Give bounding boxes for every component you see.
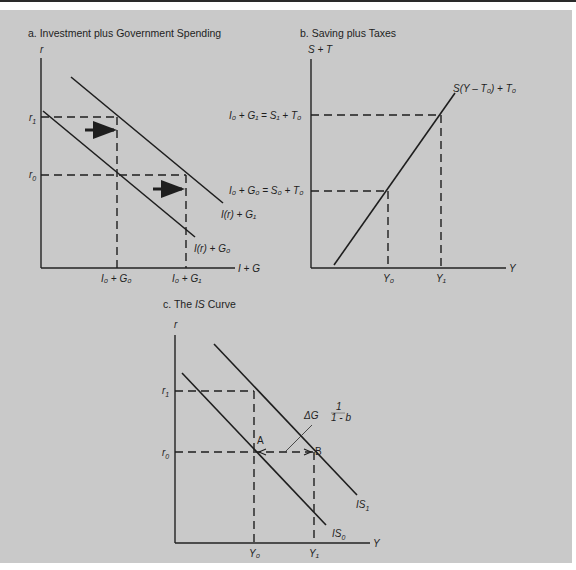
tick-r0: r0 [29,169,36,182]
tick-y0: Y₀ [383,273,394,284]
panel-c: c. The IS Curve r Y r1 r0 A B ΔG 1 1 - b… [162,298,381,559]
curve-investment-g0 [43,111,195,237]
curve-label-ir-g0: I(r) + G₀ [194,243,230,254]
panel-a: a. Investment plus Government Spending r… [28,27,260,284]
panel-a-y-axis-label: r [40,44,44,55]
tick-i0-g1: I₀ + G₁ [172,273,201,284]
tick-y0: Y₀ [249,548,260,559]
label-level-0: I₀ + G₀ = S₀ + T₀ [229,185,303,196]
panel-a-title: a. Investment plus Government Spending [28,27,221,39]
fraction-denominator: 1 - b [331,412,351,423]
point-b-label: B [315,446,322,457]
curve-saving-plus-taxes [334,93,455,265]
panel-c-title: c. The IS Curve [163,298,236,310]
panel-b-title: b. Saving plus Taxes [300,27,396,39]
is-curve-figure: a. Investment plus Government Spending r… [0,0,576,570]
fraction-numerator: 1 [336,401,342,412]
tick-i0-g0: I₀ + G₀ [101,273,131,284]
curve-label-ir-g1: I(r) + G₁ [221,209,256,220]
curve-label-is0: IS0 [332,528,345,541]
point-a-label: A [257,435,264,446]
label-level-1: I₀ + G₁ = S₁ + T₀ [229,110,301,121]
panel-b: b. Saving plus Taxes S + T Y S(Y – T₀) +… [229,27,517,284]
panel-b-y-axis-label: S + T [308,44,333,55]
tick-y1: Y₁ [436,273,446,284]
curve-investment-g1 [71,77,223,203]
curve-label-is1: IS1 [356,499,369,512]
panel-b-x-axis-label: Y [509,263,517,274]
tick-r1: r1 [29,112,36,125]
tick-r1: r1 [162,385,169,398]
tick-r0: r0 [162,447,169,460]
panel-c-y-axis-label: r [174,319,178,330]
multiplier-label: ΔG [303,410,319,421]
multiplier-leader-line [285,425,312,452]
arrow-left-icon [259,449,266,455]
panel-c-x-axis-label: Y [373,538,381,549]
tick-y1: Y₁ [309,548,319,559]
curve-label-saving: S(Y – T₀) + T₀ [453,83,516,94]
panel-a-x-axis-label: I + G [238,263,260,274]
